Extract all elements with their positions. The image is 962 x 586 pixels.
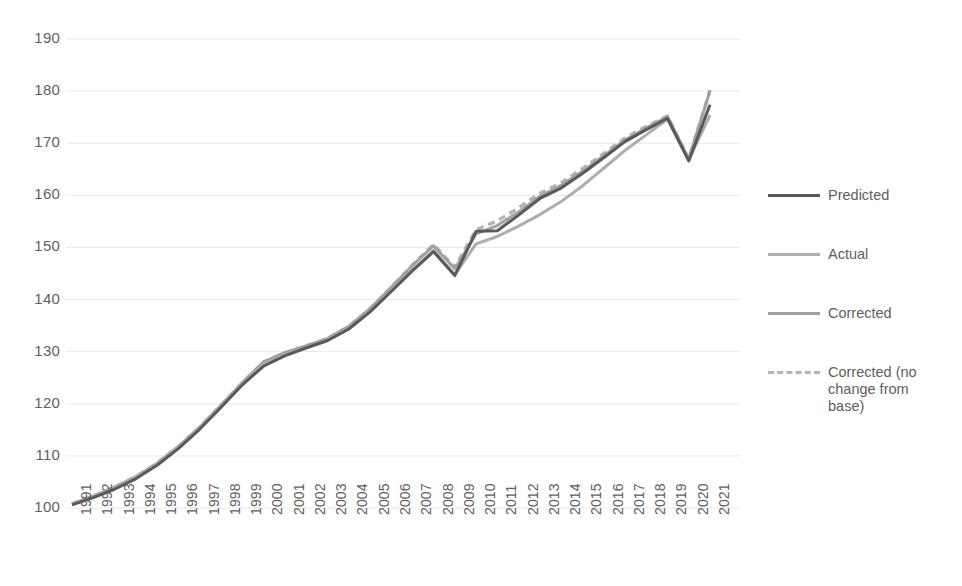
x-axis-tick-label: 2000 — [269, 483, 285, 515]
x-axis-tick-label: 2016 — [610, 483, 626, 515]
y-axis-tick-label: 110 — [14, 446, 60, 463]
x-axis-tick-label: 1992 — [99, 483, 115, 515]
y-axis-tick-label: 120 — [14, 394, 60, 411]
series-line — [72, 90, 710, 504]
x-axis-tick-label: 2004 — [354, 483, 370, 515]
x-axis-tick-label: 2007 — [418, 483, 434, 515]
x-axis-tick-label: 2008 — [440, 483, 456, 515]
line-chart: 100110120130140150160170180190 199119921… — [0, 0, 962, 586]
x-axis-tick-label: 2001 — [291, 483, 307, 515]
x-axis-tick-label: 2020 — [695, 483, 711, 515]
y-axis-tick-label: 170 — [14, 133, 60, 150]
x-axis-tick-label: 1994 — [142, 483, 158, 515]
legend-swatch-icon — [768, 363, 820, 381]
x-axis-tick-label: 2012 — [525, 483, 541, 515]
x-axis-tick-label: 2011 — [503, 484, 519, 515]
x-axis-tick-label: 2005 — [376, 483, 392, 515]
y-axis-tick-label: 190 — [14, 29, 60, 46]
x-axis-tick-label: 1993 — [121, 483, 137, 515]
x-axis-tick-label: 1998 — [227, 483, 243, 515]
x-axis-tick-label: 2009 — [461, 483, 477, 515]
legend-swatch-icon — [768, 304, 820, 322]
x-axis-tick-label: 1999 — [248, 483, 264, 515]
x-axis-tick-label: 2006 — [397, 483, 413, 515]
x-axis-tick-label: 2003 — [333, 483, 349, 515]
x-axis-tick-label: 1991 — [78, 483, 94, 515]
x-axis-tick-label: 1995 — [163, 483, 179, 515]
x-axis-tick-label: 1997 — [206, 483, 222, 515]
y-axis-tick-label: 140 — [14, 290, 60, 307]
legend-label: Actual — [828, 245, 868, 263]
y-axis-tick-label: 180 — [14, 81, 60, 98]
y-axis-tick-label: 130 — [14, 342, 60, 359]
x-axis-tick-label: 2017 — [631, 483, 647, 515]
x-axis-tick-label: 1996 — [184, 483, 200, 515]
legend-swatch-icon — [768, 186, 820, 204]
x-axis-tick-label: 2014 — [567, 483, 583, 515]
x-axis-tick-label: 2019 — [673, 483, 689, 515]
legend-item[interactable]: Predicted — [768, 186, 958, 204]
x-axis-tick-label: 2021 — [716, 483, 732, 515]
chart-legend: PredictedActualCorrectedCorrected (no ch… — [768, 186, 958, 456]
x-axis-tick-label: 2018 — [652, 483, 668, 515]
legend-item[interactable]: Corrected — [768, 304, 958, 322]
y-axis-tick-label: 100 — [14, 498, 60, 515]
legend-item[interactable]: Corrected (no change from base) — [768, 363, 958, 415]
y-axis-tick-label: 160 — [14, 185, 60, 202]
legend-item[interactable]: Actual — [768, 245, 958, 263]
legend-label: Corrected (no change from base) — [828, 363, 948, 415]
legend-label: Predicted — [828, 186, 889, 204]
x-axis-tick-label: 2015 — [588, 483, 604, 515]
x-axis-tick-label: 2002 — [312, 483, 328, 515]
series-line — [72, 105, 710, 505]
x-axis-tick-label: 2013 — [546, 483, 562, 515]
y-axis-tick-label: 150 — [14, 237, 60, 254]
x-axis-tick-label: 2010 — [482, 483, 498, 515]
series-lines — [72, 90, 710, 505]
legend-label: Corrected — [828, 304, 892, 322]
legend-swatch-icon — [768, 245, 820, 263]
series-line — [72, 91, 710, 504]
series-line — [72, 115, 710, 504]
